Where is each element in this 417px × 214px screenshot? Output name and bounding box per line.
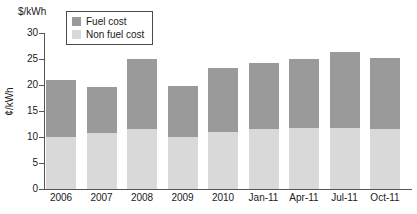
y-axis-tick-label: 30 <box>0 28 38 38</box>
y-axis-tick <box>39 85 45 86</box>
x-axis-tick-label: Apr-11 <box>283 192 325 204</box>
x-axis-tick-label: Jul-11 <box>324 192 366 204</box>
bar-segment-non-fuel-cost <box>127 129 157 189</box>
bar-segment-fuel-cost <box>87 87 117 133</box>
y-axis-tick <box>39 137 45 138</box>
bar-stack <box>208 68 238 189</box>
legend-swatch-icon <box>72 17 81 26</box>
bar-segment-fuel-cost <box>127 59 157 129</box>
legend-item: Non fuel cost <box>72 28 144 41</box>
x-axis-tick-label: 2008 <box>121 192 163 204</box>
bar-segment-non-fuel-cost <box>87 133 117 189</box>
y-axis-tick-label: 5 <box>0 158 38 168</box>
bar-stack <box>289 59 319 189</box>
x-axis-tick-label: 2009 <box>162 192 204 204</box>
bar-stack <box>330 52 360 189</box>
bar-stack <box>370 58 400 189</box>
y-axis-tick-label: 0 <box>0 184 38 194</box>
legend-item-label: Fuel cost <box>86 16 127 27</box>
x-axis-tick-label: Jan-11 <box>243 192 285 204</box>
bar-segment-fuel-cost <box>208 68 238 131</box>
chart-container: $/kWh ¢/kWh 302520151050 Fuel costNon fu… <box>0 0 417 214</box>
chart-legend: Fuel costNon fuel cost <box>66 11 153 45</box>
bar-segment-non-fuel-cost <box>208 132 238 189</box>
bar-segment-non-fuel-cost <box>289 128 319 189</box>
y-axis-tick-label: 25 <box>0 54 38 64</box>
bar-stack <box>127 59 157 189</box>
bar-segment-non-fuel-cost <box>46 137 76 189</box>
bar-segment-fuel-cost <box>330 52 360 128</box>
y-axis-tick-label: 10 <box>0 132 38 142</box>
x-axis-line <box>44 189 412 190</box>
bar-segment-fuel-cost <box>289 59 319 128</box>
bar-stack <box>87 87 117 189</box>
legend-swatch-icon <box>72 30 81 39</box>
bar-segment-non-fuel-cost <box>370 129 400 189</box>
y-axis-tick-label: 20 <box>0 80 38 90</box>
bar-stack <box>168 86 198 189</box>
y-axis-tick-labels: 302520151050 <box>0 0 38 214</box>
bar-segment-fuel-cost <box>168 86 198 137</box>
bar-segment-fuel-cost <box>370 58 400 129</box>
bar-segment-non-fuel-cost <box>330 128 360 189</box>
y-axis-tick-label: 15 <box>0 106 38 116</box>
bar-stack <box>249 63 279 189</box>
y-axis-tick <box>39 111 45 112</box>
bar-segment-non-fuel-cost <box>249 129 279 189</box>
bar-segment-fuel-cost <box>249 63 279 130</box>
x-axis-tick-label: 2007 <box>81 192 123 204</box>
legend-item-label: Non fuel cost <box>86 29 144 40</box>
x-axis-tick-label: 2006 <box>40 192 82 204</box>
y-axis-tick <box>39 189 45 190</box>
y-axis-tick <box>39 33 45 34</box>
bar-segment-non-fuel-cost <box>168 137 198 189</box>
legend-item: Fuel cost <box>72 15 144 28</box>
x-axis-tick-label: Oct-11 <box>364 192 406 204</box>
y-axis-tick <box>39 59 45 60</box>
bar-stack <box>46 80 76 189</box>
y-axis-tick <box>39 163 45 164</box>
bar-segment-fuel-cost <box>46 80 76 137</box>
x-axis-tick-label: 2010 <box>202 192 244 204</box>
